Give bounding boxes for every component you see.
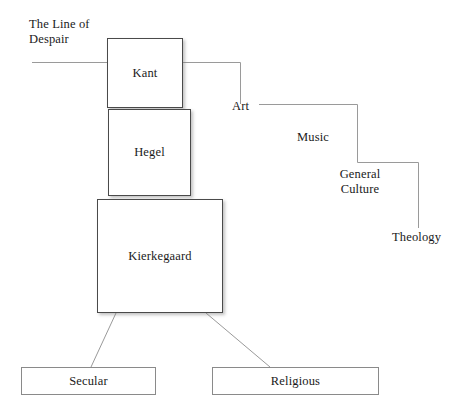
node-box-hegel: Hegel — [108, 109, 191, 196]
node-label-kierkegaard: Kierkegaard — [128, 249, 191, 264]
step-label-art: Art — [232, 99, 249, 114]
node-box-kierkegaard: Kierkegaard — [97, 199, 223, 313]
step-label-theology: Theology — [392, 230, 441, 245]
outcome-label-religious: Religious — [271, 374, 320, 389]
line-of-despair-diagram: The Line of Despair Kant Hegel Kierkegaa… — [0, 0, 470, 413]
node-label-hegel: Hegel — [134, 145, 165, 160]
outcome-box-religious: Religious — [212, 367, 379, 395]
node-box-kant: Kant — [107, 38, 183, 108]
outcome-label-secular: Secular — [69, 374, 108, 389]
node-label-kant: Kant — [133, 66, 158, 81]
step-label-music: Music — [297, 130, 329, 145]
step-label-general-culture: General Culture — [330, 167, 390, 197]
outcome-box-secular: Secular — [21, 367, 156, 395]
connector-kierkegaard-to-religious — [206, 313, 270, 367]
connector-lines-layer — [0, 0, 470, 413]
connector-kierkegaard-to-secular — [91, 313, 116, 367]
